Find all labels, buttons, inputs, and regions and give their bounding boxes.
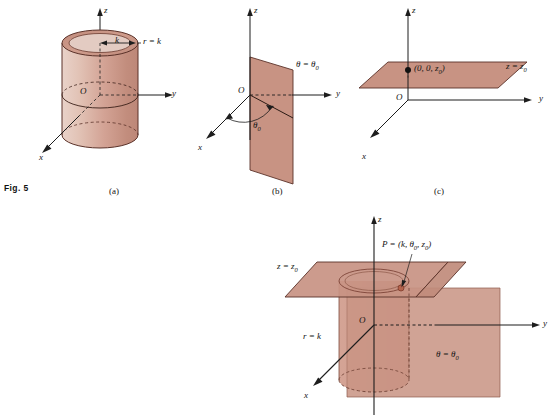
panel-b-theta0-text: θ0 (253, 120, 261, 130)
panel-d-z-axis-label: z (378, 215, 382, 224)
panel-c-caption: (c) (434, 186, 444, 196)
panel-a-z-axis-label: z (104, 6, 108, 15)
panel-a-x-axis-label: x (39, 153, 43, 162)
panel-b-graphic (206, 8, 332, 184)
panel-c-y-axis (408, 97, 532, 103)
panel-c-x-axis (370, 100, 408, 138)
panel-b-x-axis-label: x (198, 143, 202, 152)
figure-canvas (0, 0, 555, 416)
panel-d-x-axis-label: x (304, 391, 308, 400)
panel-d-point-p-label: P = (k, θ0, z0) (382, 240, 431, 251)
panel-a-graphic (42, 8, 173, 153)
panel-c-y-axis-label: y (539, 94, 543, 103)
panel-d-cylinder-equation: r = k (303, 332, 321, 341)
panel-d-halfplane-equation: θ = θ0 (436, 350, 459, 361)
figure-container: Fig. 5 z y x O k r = k (a) z y x O θ = θ… (0, 0, 555, 416)
point-marker-c (405, 67, 411, 73)
panel-c-x-axis-label: x (362, 152, 366, 161)
panel-a-radius-label: k (115, 36, 119, 45)
panel-a-surface-equation: r = k (143, 37, 161, 46)
panel-a-caption: (a) (109, 186, 119, 196)
panel-c-z-axis-label: z (412, 6, 416, 15)
panel-c-origin-label: O (396, 93, 403, 102)
panel-b-theta-eq-text: θ = θ0 (296, 59, 319, 69)
panel-b-y-axis-label: y (336, 89, 340, 98)
panel-b-angle-label: θ0 (253, 121, 261, 132)
panel-b-origin-label: O (238, 86, 245, 95)
panel-d-origin-label: O (359, 316, 366, 325)
panel-a-y-axis-label: y (172, 89, 176, 98)
panel-b-surface-equation: θ = θ0 (296, 60, 319, 71)
panel-a-origin-label: O (80, 87, 87, 96)
panel-b-z-axis-label: z (254, 6, 258, 15)
panel-d-plane-equation: z = z0 (277, 262, 298, 273)
point-marker-p (398, 285, 404, 291)
panel-b-caption: (b) (272, 186, 283, 196)
panel-d-y-axis-label: y (543, 319, 547, 328)
panel-c-surface-equation: z = z0 (506, 62, 527, 73)
figure-number: Fig. 5 (4, 183, 29, 193)
panel-c-point-label: (0, 0, z0) (414, 64, 445, 75)
